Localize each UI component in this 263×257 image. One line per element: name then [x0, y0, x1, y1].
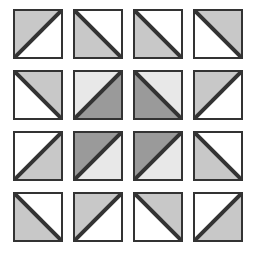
- tile-shape-r4c3: [135, 194, 181, 240]
- tile-shape-r1c3: [135, 11, 181, 57]
- tile-r1c1: [13, 9, 63, 59]
- tile-shape-r1c4: [195, 11, 241, 57]
- tile-shape-r3c2: [75, 133, 121, 179]
- tile-shape-r1c2: [75, 11, 121, 57]
- tile-r2c4: [193, 70, 243, 120]
- tile-r1c2: [73, 9, 123, 59]
- tile-shape-r3c4: [195, 133, 241, 179]
- tile-shape-r4c2: [75, 194, 121, 240]
- tile-shape-r3c3: [135, 133, 181, 179]
- tile-r3c4: [193, 131, 243, 181]
- tile-shape-r3c1: [15, 133, 61, 179]
- tile-r2c2: [73, 70, 123, 120]
- tile-grid: [0, 0, 263, 257]
- tile-shape-r1c1: [15, 11, 61, 57]
- tile-r4c2: [73, 192, 123, 242]
- tile-shape-r4c1: [15, 194, 61, 240]
- tile-shape-r2c1: [15, 72, 61, 118]
- tile-shape-r2c3: [135, 72, 181, 118]
- tile-shape-r2c2: [75, 72, 121, 118]
- tile-r3c1: [13, 131, 63, 181]
- tile-r4c1: [13, 192, 63, 242]
- tile-r4c4: [193, 192, 243, 242]
- tile-r1c3: [133, 9, 183, 59]
- tile-r3c3: [133, 131, 183, 181]
- tile-r2c3: [133, 70, 183, 120]
- tile-r4c3: [133, 192, 183, 242]
- tile-shape-r4c4: [195, 194, 241, 240]
- tile-r3c2: [73, 131, 123, 181]
- tile-r2c1: [13, 70, 63, 120]
- tile-shape-r2c4: [195, 72, 241, 118]
- tile-r1c4: [193, 9, 243, 59]
